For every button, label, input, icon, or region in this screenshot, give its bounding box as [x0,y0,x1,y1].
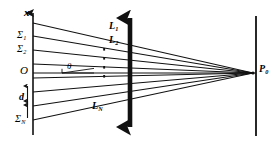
ellipsis-dot [103,75,105,78]
focus-dot [251,71,254,74]
focus-point-label: P0 [259,64,268,75]
origin-label: O [20,65,28,76]
ray-label-L2: L2 [109,35,118,46]
ray-label-LN: LN [92,101,103,112]
ray-label-L1: L1 [109,21,118,32]
theta-angle-label: θ [67,62,71,71]
optical-ray-diagram: x Σ1 Σ2 O d ΣN L1 L2 LN θ P0 [0,0,280,145]
ray-L1 [33,36,253,73]
diagram-canvas [0,0,280,145]
spacing-d-label: d [19,92,24,102]
source-plane-label-sigma-2: Σ2 [17,44,26,55]
ray-L2 [33,50,253,73]
source-plane-label-sigma-1: Σ1 [17,30,26,41]
focus-point-marker [251,71,254,74]
x-axis-label: x [24,7,30,18]
ray-bundle [33,23,253,120]
ellipsis-dot [103,48,105,51]
source-plane-label-sigma-N: ΣN [15,114,25,125]
ellipsis-dot [103,57,105,60]
ellipsis-dot [103,66,105,69]
ray-LN [33,73,253,120]
